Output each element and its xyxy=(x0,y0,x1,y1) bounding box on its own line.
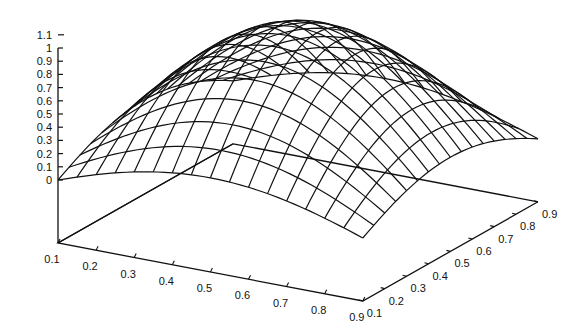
x-tick-label: 0.1 xyxy=(44,253,59,265)
y-tick-label: 0.1 xyxy=(367,307,382,319)
surface-plot: 00.10.20.30.40.50.60.70.80.911.1 0.10.20… xyxy=(0,0,587,326)
y-tick-label: 0.6 xyxy=(476,245,491,257)
y-tick-label: 0.5 xyxy=(454,257,469,269)
mesh-line xyxy=(172,22,347,173)
x-tick-label: 0.7 xyxy=(273,297,288,309)
x-tick-label: 0.8 xyxy=(311,304,326,316)
y-axis: 0.10.20.30.40.50.60.70.80.9 xyxy=(359,201,557,319)
z-tick-label: 1.1 xyxy=(37,29,52,41)
z-tick-label: 0.4 xyxy=(37,121,52,133)
mesh-line xyxy=(233,73,538,139)
y-tick-label: 0.7 xyxy=(498,233,513,245)
mesh-line xyxy=(363,138,538,238)
y-tick-label: 0.2 xyxy=(389,295,404,307)
mesh-line xyxy=(58,172,363,238)
mesh-line xyxy=(153,26,328,171)
wireframe-surface xyxy=(58,20,538,238)
mesh-line xyxy=(344,120,519,228)
y-tick-label: 0.8 xyxy=(520,220,535,232)
x-tick-label: 0.9 xyxy=(349,311,364,323)
x-tick-label: 0.5 xyxy=(197,282,212,294)
z-tick-label: 0.9 xyxy=(37,55,52,67)
x-tick-label: 0.2 xyxy=(82,260,97,272)
y-tick-label: 0.9 xyxy=(542,208,557,220)
mesh-line xyxy=(157,21,462,151)
z-tick-label: 0.3 xyxy=(37,134,52,146)
z-tick-label: 0.2 xyxy=(37,148,52,160)
z-axis: 00.10.20.30.40.50.60.70.80.911.1 xyxy=(37,29,64,186)
y-tick-label: 0.4 xyxy=(433,270,448,282)
x-axis: 0.10.20.30.40.50.60.70.80.9 xyxy=(44,239,364,323)
z-tick-label: 1 xyxy=(46,42,52,54)
y-tick-label: 0.3 xyxy=(411,282,426,294)
mesh-line xyxy=(80,122,385,213)
x-tick-label: 0.6 xyxy=(235,289,250,301)
z-tick-label: 0 xyxy=(46,174,52,186)
z-tick-label: 0.5 xyxy=(37,108,52,120)
x-tick-label: 0.3 xyxy=(121,268,136,280)
z-tick-label: 0.6 xyxy=(37,95,52,107)
z-tick-label: 0.7 xyxy=(37,82,52,94)
z-tick-label: 0.8 xyxy=(37,68,52,80)
x-tick-label: 0.4 xyxy=(159,275,174,287)
z-tick-label: 0.1 xyxy=(37,161,52,173)
